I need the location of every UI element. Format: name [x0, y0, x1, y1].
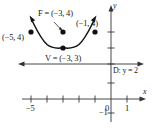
directrix-label: D: y = 2 — [113, 67, 138, 75]
x-tick-label-neg5: −5 — [26, 104, 35, 113]
directrix-arrow-right — [138, 62, 145, 67]
point-right — [92, 29, 97, 34]
point-focus — [60, 29, 65, 34]
directrix-arrow-left — [18, 62, 25, 67]
vertex-label: V = (−3, 3) — [45, 54, 81, 63]
y-tick-label-neg1: −1 — [99, 108, 108, 117]
focus-label: F = (−3, 4) — [38, 9, 73, 18]
left-point-label: (−5, 4) — [2, 33, 24, 42]
point-vertex — [60, 45, 65, 50]
parabola-figure: F = (−3, 4) (−5, 4) (−1, 4) V = (−3, 3) … — [0, 0, 154, 133]
x-axis — [22, 96, 146, 103]
x-axis-arrow — [140, 97, 147, 102]
x-tick-label-1: 1 — [125, 104, 129, 113]
point-left — [28, 29, 33, 34]
right-point-label: (−1, 4) — [76, 19, 98, 28]
y-axis-label: y — [113, 2, 116, 10]
curve-arrow-left — [30, 16, 36, 23]
x-axis-label: x — [143, 88, 146, 96]
